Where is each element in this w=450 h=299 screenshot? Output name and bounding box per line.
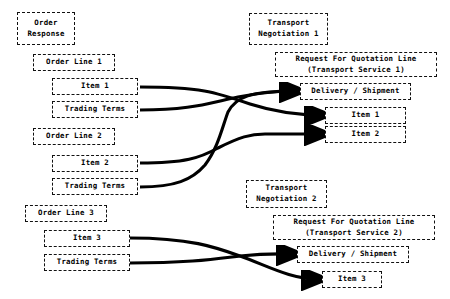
edge-item-2-to-item-2 [140,134,321,163]
node-delivery-shipment-2[interactable]: Delivery / Shipment [297,246,409,263]
edge-item-3-to-item-3 [130,238,318,279]
node-order-line-1[interactable]: Order Line 1 [33,54,115,71]
node-transport-negotiation-2[interactable]: Transport Negotiation 2 [246,180,327,208]
edge-item-1-to-item-1 [140,87,321,115]
node-order-line-3[interactable]: Order Line 3 [25,205,107,222]
node-item-1-right[interactable]: Item 1 [325,107,406,124]
node-rfq-line-2[interactable]: Request For Quotation Line (Transport Se… [273,215,435,240]
node-transport-negotiation-1[interactable]: Transport Negotiation 1 [249,13,328,45]
edge-trading-terms-3-to-delivery-shipment-2 [130,254,293,263]
node-trading-terms-2[interactable]: Trading Terms [52,178,138,195]
node-item-3-right[interactable]: Item 3 [322,271,382,288]
diagram-canvas: Order Response Order Line 1 Item 1 Tradi… [0,0,450,299]
edge-trading-terms-2-to-delivery-shipment-1 [140,91,296,187]
node-order-line-2[interactable]: Order Line 2 [33,128,115,145]
node-item-2-right[interactable]: Item 2 [325,126,406,143]
node-rfq-line-1[interactable]: Request For Quotation Line (Transport Se… [275,52,437,77]
node-item-3-left[interactable]: Item 3 [44,230,130,247]
node-order-response[interactable]: Order Response [17,12,75,45]
node-item-2-left[interactable]: Item 2 [52,155,138,172]
node-delivery-shipment-1[interactable]: Delivery / Shipment [300,83,411,100]
edge-trading-terms-1-to-delivery-shipment-1 [140,91,296,110]
node-trading-terms-3[interactable]: Trading Terms [44,254,130,271]
node-item-1-left[interactable]: Item 1 [52,78,138,95]
node-trading-terms-1[interactable]: Trading Terms [52,101,138,118]
